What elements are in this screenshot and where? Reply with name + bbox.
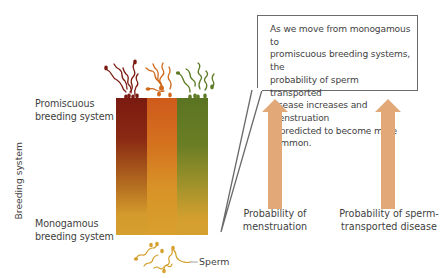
callout-tail-join bbox=[253, 88, 262, 91]
disease-label-line2: transported disease bbox=[335, 221, 443, 234]
disease-label-line1: Probability of sperm- bbox=[335, 208, 443, 221]
disease-up-arrow-icon bbox=[374, 99, 402, 209]
callout-line-3: probability of sperm transported bbox=[270, 74, 411, 99]
menstruation-label-line1: Probability of bbox=[227, 208, 323, 221]
callout-line-2: promiscuous breeding systems, the bbox=[270, 48, 411, 73]
menstruation-arrow-label: Probability of menstruation bbox=[227, 208, 323, 234]
menstruation-label-line2: menstruation bbox=[227, 221, 323, 234]
menstruation-up-arrow-icon bbox=[261, 99, 289, 209]
disease-arrow-label: Probability of sperm- transported diseas… bbox=[335, 208, 443, 234]
callout-box: As we move from monogamous to promiscuou… bbox=[257, 15, 418, 91]
callout-line-1: As we move from monogamous to bbox=[270, 23, 411, 48]
